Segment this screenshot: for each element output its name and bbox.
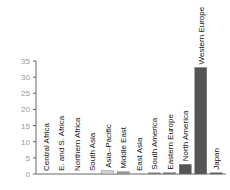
category-label: East Asia: [135, 137, 144, 171]
y-tick-label: 5: [26, 154, 31, 163]
bar: [148, 173, 160, 174]
category-label: Northern Africa: [73, 117, 82, 171]
y-tick-label: 25: [21, 89, 30, 98]
y-tick-label: 10: [21, 138, 30, 147]
y-tick-label: 30: [21, 73, 30, 82]
bar: [179, 164, 191, 174]
category-label: Middle East: [119, 126, 128, 169]
y-tick-label: 15: [21, 122, 30, 131]
category-label: Asia–Pacific: [104, 124, 113, 168]
bar: [102, 171, 114, 174]
y-tick-label: 0: [26, 170, 31, 179]
category-label: South Asia: [88, 132, 97, 171]
bar: [210, 173, 222, 174]
category-label: E. and S. Africa: [57, 115, 66, 171]
category-labels: Central AfricaE. and S. AfricaNorthern A…: [42, 6, 222, 171]
bar-chart: 05101520253035 Central AfricaE. and S. A…: [0, 0, 230, 190]
bar: [117, 172, 129, 174]
category-label: South America: [150, 117, 159, 170]
category-label: Central Africa: [42, 122, 51, 171]
category-label: Eastern Europe: [166, 114, 175, 170]
bar: [164, 173, 176, 174]
y-tick-label: 35: [21, 57, 30, 66]
category-label: North America: [181, 110, 190, 161]
y-tick-label: 20: [21, 105, 30, 114]
category-label: Western Europe: [197, 6, 206, 64]
category-label: Japan: [212, 148, 221, 170]
bar: [195, 67, 207, 174]
